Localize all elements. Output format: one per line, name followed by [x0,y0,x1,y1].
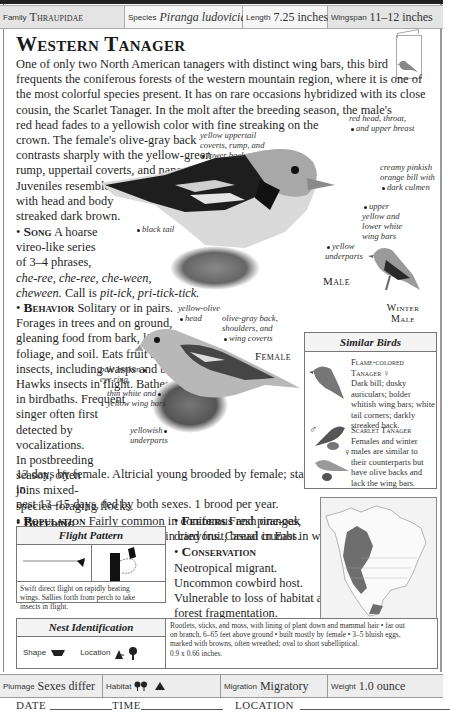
label-uppertail-coverts: yellow uppertail coverts, rump, and lowe… [200,130,264,160]
wingspan-label: Wingspan [331,13,367,22]
nest-description-line: Rootlets, sticks, and moss, with lining … [170,621,433,630]
weight-cell: Weight 1.0 ounce [328,675,443,697]
location-field[interactable] [300,699,450,710]
species-label: Species [128,13,156,22]
flight-pattern-diagrams [17,545,165,582]
migration-cell: Migration Migratory [221,675,328,697]
length-value: 7.25 inches [273,10,328,25]
time-field[interactable] [141,699,223,710]
flight-description-line: Swift direct flight on rapidly beating [20,584,162,593]
flame-colored-tanager-thumbnail [309,361,347,401]
label-eye-ring: pale broken eye ring [100,364,148,384]
flight-pattern-description: Swift direct flight on rapidly beating w… [17,582,165,613]
forest-icon [134,681,148,691]
leader-dot [202,155,205,158]
label-line: coverts, rump, and [200,140,264,150]
feeders-conservation: • Feeders Fresh oranges, dried fruit, br… [174,513,324,621]
nest-id-icons-row: Shape Location [17,637,165,668]
sally-flight-diagram [92,545,166,581]
song-text: A hoarse [54,225,98,239]
label-line: lower white [362,221,402,231]
label-line: yellowish [130,425,162,435]
similar-bird-text: Dark bill; dusky [351,378,435,389]
intro-line: frequents the coniferous forests of the … [16,72,436,87]
mountain-icon [154,681,166,691]
date-field[interactable] [50,699,112,710]
conservation-text: Neotropical migrant. [174,561,324,576]
label-female-wing-bars: thin white and yellow wing bars [107,388,166,408]
conservation-text: Uncommon cowbird host. [174,576,324,591]
label-line: underparts [130,435,169,445]
nest-identification-box: Nest Identification Shape Location Rootl… [16,618,438,669]
behavior-text: In postbreeding [16,453,226,468]
flight-description-line: insects in flight. [20,602,162,611]
migration-label: Migration [224,682,257,691]
behavior-text: vocalizations. [16,438,226,453]
nest-description-line: marked with browns, often wreathed; oval… [170,639,433,648]
nest-shape-label: Shape [23,648,46,657]
label-line: creamy pinkish [380,162,435,172]
label-line: wing coverts [229,333,273,343]
label-bill: creamy pinkish orange bill with dark cul… [380,162,435,192]
label-line: yellow and [362,211,402,221]
length-label: Length [246,13,270,22]
length-cell: Length 7.25 inches [243,6,328,28]
label-line: thin white and [107,388,156,398]
label-female-underparts: yellowish underparts [130,425,169,445]
male-caption: Male [323,275,350,287]
leader-dot [143,369,146,372]
intro-line: One of only two North American tanagers … [16,57,436,72]
label-line: upper [369,201,389,211]
location-label: LOCATION [235,699,294,711]
label-line: yellow wing bars [107,398,166,408]
weight-label: Weight [331,682,356,691]
flight-pattern-box: Flight Pattern Swift direct flight on ra… [16,526,166,603]
sighting-log: DATE TIME LOCATION [16,699,450,711]
page-title: Western Tanager [16,32,185,57]
nest-description-line: on branch, 6–65 feet above ground • buil… [170,630,433,639]
call-prefix: Call is [65,286,97,300]
leader-dot [137,229,140,232]
nesting-text: nest 13–15 days, fed by both sexes. 1 br… [16,497,316,512]
similar-bird-text: have olive backs and [351,467,435,478]
plumage-label: Plumage [3,682,35,691]
direct-flight-path-icon [17,545,91,581]
behavior-heading: Behavior [23,300,74,315]
label-line: yellow uppertail [200,130,264,140]
scarlet-tanager-entry: Scarlet Tanager Females and winter males… [351,425,435,488]
similar-bird-name: Scarlet Tanager [351,425,435,436]
label-wing-bars: upper yellow and lower white wing bars [362,201,402,241]
scarlet-tanager-female-thumbnail [311,455,351,483]
label-line: eye ring [100,374,148,384]
label-female-back: olive-gray back, shoulders, and wing cov… [222,313,278,343]
label-red-head: red head, throat, and upper breast [349,113,414,133]
feeders-heading: Feeders [181,513,225,528]
similar-bird-name-text: Flame-colored Tanager [351,357,404,378]
family-label: Family [3,13,27,22]
winter-male-caption: Winter Male [383,302,423,324]
feeders-text: dried fruit, bread crumbs. [174,529,324,544]
weight-value: 1.0 ounce [359,679,406,694]
leader-dot [351,128,354,131]
tree-branch-location-icon [114,646,140,660]
label-underparts: yellow underparts [325,241,363,261]
label-line: red head, throat, [349,113,414,123]
conservation-heading: Conservation [181,544,256,559]
caption-line: Winter [383,302,423,313]
wingspan-value: 11–12 inches [370,10,433,25]
conservation-text: Vulnerable to loss of habitat and [174,591,324,606]
leader-dot [327,246,330,249]
similar-bird-text: their counterparts but [351,457,435,468]
label-line: lower back [207,150,245,160]
similar-bird-text: Females and winter [351,436,435,447]
range-map [320,497,437,620]
similar-birds-box: Similar Birds Flame-colored Tanager ♀ Da… [304,332,437,489]
flame-colored-tanager-entry: Flame-colored Tanager ♀ Dark bill; dusky… [351,357,435,431]
label-line: underparts [325,251,363,261]
label-line: pale broken [100,364,141,374]
nesting-text: 13 days by female. Altricial young brood… [16,467,316,497]
similar-bird-text: males are similar to [351,446,435,457]
wingspan-cell: Wingspan 11–12 inches [328,6,443,28]
label-female-head: yellow-olive head [178,303,220,323]
leader-dot [164,430,167,433]
